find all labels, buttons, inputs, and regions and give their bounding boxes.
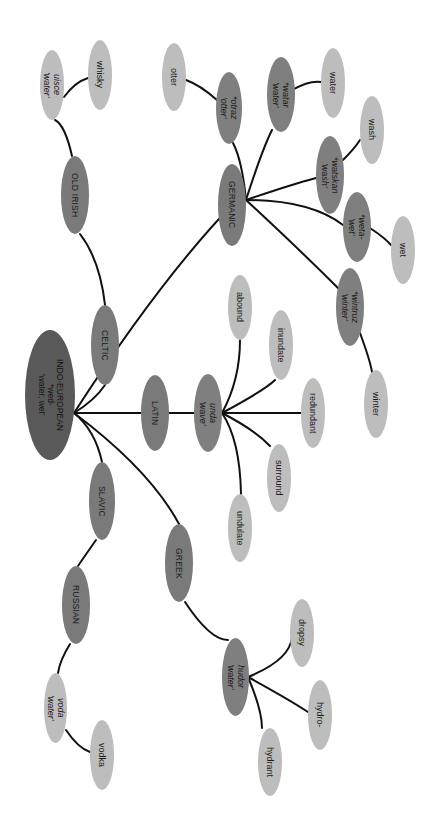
node-label: undulate (235, 511, 245, 546)
node-label: INDO-EUROPEAN *wed- 'water, wet' (37, 359, 64, 431)
node-label: redundant (308, 393, 318, 434)
node-voda: voda 'water' (44, 673, 67, 743)
node-water: water (321, 48, 345, 118)
node-label: hudor 'water' (226, 664, 246, 689)
node-hydro: hydro- (308, 680, 332, 750)
node-watar: *watar 'water' (267, 57, 295, 132)
node-otraz: *otraz 'otter' (216, 72, 242, 144)
node-label: LATIN (150, 401, 160, 425)
node-label: *watar 'water' (271, 82, 291, 108)
node-dropsy: dropsy (290, 599, 314, 667)
node-label: *weta- 'wet' (347, 214, 367, 240)
node-label: water (328, 72, 338, 94)
node-label: dropsy (297, 619, 307, 646)
node-old-irish: OLD IRISH (61, 156, 89, 234)
node-label: *watskan 'wash' (320, 157, 340, 194)
node-russian: RUSSIAN (62, 566, 90, 644)
node-label: whisky (95, 61, 105, 88)
node-label: unda 'wave' (198, 401, 218, 425)
node-label: *otraz 'otter' (219, 96, 239, 120)
node-indo-european: INDO-EUROPEAN *wed- 'water, wet' (25, 330, 75, 460)
node-vodka: vodka (90, 720, 114, 790)
node-inundate: inundate (269, 310, 293, 380)
node-whisky: whisky (88, 40, 112, 110)
node-label: abound (235, 292, 245, 322)
node-label: otter (169, 68, 179, 86)
node-label: *wintruz 'winter' (340, 291, 360, 323)
node-slavic: SLAVIC (89, 462, 115, 540)
node-label: SLAVIC (97, 486, 107, 517)
node-latin: LATIN (141, 375, 169, 451)
node-redundant: redundant (301, 378, 325, 448)
node-otter: otter (162, 43, 186, 111)
node-weta: *weta- 'wet' (343, 192, 371, 262)
node-label: inundate (276, 328, 286, 363)
node-unda: unda 'wave' (194, 374, 222, 452)
node-germanic: GERMANIC (218, 164, 246, 246)
node-label: winter (371, 392, 381, 416)
node-uisce: uisce 'water' (40, 50, 64, 120)
node-greek: GREEK (165, 524, 193, 602)
node-hydrant: hydrant (258, 728, 282, 796)
node-celtic: CELTIC (91, 305, 119, 385)
node-wintruz: *wintruz 'winter' (336, 268, 364, 346)
node-winter: winter (364, 370, 388, 438)
node-label: wet (398, 243, 408, 257)
node-label: surround (274, 460, 284, 496)
node-abound: abound (228, 275, 252, 340)
node-label: vodka (97, 743, 107, 767)
node-undulate: undulate (228, 494, 252, 562)
node-label: RUSSIAN (71, 585, 81, 624)
node-label: GREEK (174, 548, 184, 579)
node-surround: surround (267, 444, 291, 512)
node-label: CELTIC (100, 330, 110, 361)
node-label: hydro- (315, 702, 325, 728)
node-hudor: hudor 'water' (222, 638, 249, 716)
node-label: GERMANIC (227, 181, 237, 228)
node-watskan: *watskan 'wash' (316, 136, 344, 214)
node-label: voda 'water' (46, 695, 66, 720)
node-wet: wet (391, 216, 415, 284)
node-label: OLD IRISH (70, 173, 80, 217)
node-wash: wash (360, 96, 384, 164)
node-label: wash (367, 119, 377, 140)
node-label: uisce 'water' (42, 72, 62, 97)
node-label: hydrant (265, 747, 275, 777)
